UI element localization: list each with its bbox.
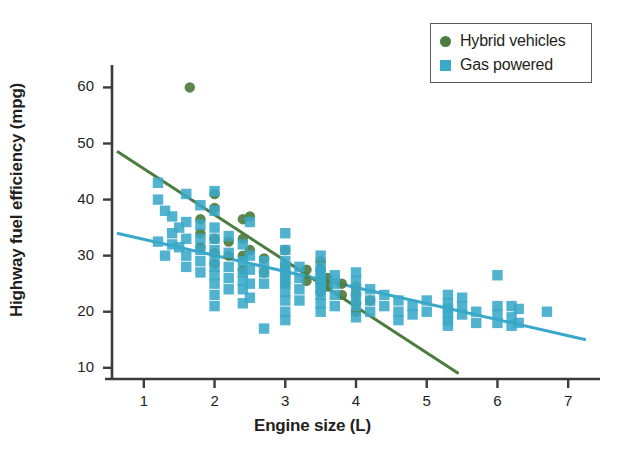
data-point: [209, 222, 219, 232]
data-point: [365, 284, 375, 294]
data-point: [294, 273, 304, 283]
data-point: [280, 295, 290, 305]
data-point: [245, 278, 255, 288]
data-point: [443, 321, 453, 331]
data-point: [379, 290, 389, 300]
y-axis-title-container: Highway fuel efficiency (mpg): [0, 0, 34, 400]
y-tick-label: 30: [60, 246, 94, 263]
data-point: [365, 295, 375, 305]
x-axis-title: Engine size (L): [0, 416, 625, 436]
x-tick-label: 4: [341, 392, 371, 409]
data-point: [185, 82, 195, 92]
data-points: [153, 82, 552, 334]
data-point: [294, 284, 304, 294]
x-tick-label: 1: [129, 392, 159, 409]
data-point: [259, 256, 269, 266]
data-point: [294, 262, 304, 272]
data-point: [160, 250, 170, 260]
data-point: [315, 250, 325, 260]
data-point: [238, 239, 248, 249]
data-point: [181, 217, 191, 227]
data-point: [471, 318, 481, 328]
data-point: [195, 234, 205, 244]
data-point: [294, 295, 304, 305]
data-point: [209, 206, 219, 216]
data-point: [209, 278, 219, 288]
data-point: [422, 307, 432, 317]
data-point: [209, 234, 219, 244]
data-point: [259, 323, 269, 333]
x-tick-label: 6: [482, 392, 512, 409]
data-point: [393, 315, 403, 325]
data-point: [181, 234, 191, 244]
data-point: [223, 273, 233, 283]
x-tick-label: 2: [200, 392, 230, 409]
data-point: [223, 231, 233, 241]
data-point: [379, 301, 389, 311]
data-point: [245, 250, 255, 260]
y-tick-label: 20: [60, 302, 94, 319]
data-point: [457, 309, 467, 319]
data-point: [223, 262, 233, 272]
data-point: [330, 278, 340, 288]
data-point: [195, 267, 205, 277]
data-point: [513, 318, 523, 328]
legend-swatch-square-icon: [440, 60, 451, 71]
data-point: [513, 304, 523, 314]
legend-label-hybrid-vehicles: Hybrid vehicles: [460, 32, 566, 50]
y-tick-label: 50: [60, 134, 94, 151]
data-point: [471, 307, 481, 317]
y-tick-label: 60: [60, 77, 94, 94]
data-point: [280, 228, 290, 238]
y-tick-label: 10: [60, 358, 94, 375]
data-point: [351, 312, 361, 322]
data-point: [407, 309, 417, 319]
data-point: [492, 318, 502, 328]
data-point: [280, 315, 290, 325]
data-point: [259, 267, 269, 277]
data-point: [195, 245, 205, 255]
data-point: [181, 189, 191, 199]
data-point: [195, 200, 205, 210]
data-point: [223, 284, 233, 294]
data-point: [167, 211, 177, 221]
data-point: [181, 250, 191, 260]
data-point: [365, 307, 375, 317]
legend-item-hybrid-vehicles[interactable]: Hybrid vehicles: [440, 29, 583, 53]
data-point: [195, 256, 205, 266]
data-point: [223, 248, 233, 258]
data-point: [330, 290, 340, 300]
data-point: [492, 270, 502, 280]
legend-swatch-circle-icon: [440, 36, 451, 47]
data-point: [330, 301, 340, 311]
data-point: [315, 307, 325, 317]
data-point: [153, 236, 163, 246]
data-point: [259, 278, 269, 288]
legend-label-gas-powered: Gas powered: [460, 56, 553, 74]
legend: Hybrid vehicles Gas powered: [430, 23, 592, 83]
data-point: [153, 178, 163, 188]
data-point: [351, 301, 361, 311]
y-tick-label: 40: [60, 190, 94, 207]
y-tick-marks: [103, 87, 112, 367]
data-point: [542, 307, 552, 317]
data-point: [422, 295, 432, 305]
data-point: [195, 220, 205, 230]
x-tick-marks: [144, 379, 568, 388]
x-tick-label: 5: [412, 392, 442, 409]
y-axis-title: Highway fuel efficiency (mpg): [7, 83, 27, 317]
data-point: [209, 186, 219, 196]
x-tick-label: 7: [553, 392, 583, 409]
data-point: [245, 292, 255, 302]
legend-item-gas-powered[interactable]: Gas powered: [440, 53, 583, 77]
data-point: [209, 301, 219, 311]
x-tick-label: 3: [270, 392, 300, 409]
data-point: [393, 295, 403, 305]
data-point: [245, 264, 255, 274]
data-point: [181, 262, 191, 272]
data-point: [245, 217, 255, 227]
data-point: [280, 245, 290, 255]
data-point: [209, 290, 219, 300]
scatter-plot-figure: 102030405060 1234567 Highway fuel effici…: [0, 0, 625, 462]
data-point: [153, 194, 163, 204]
